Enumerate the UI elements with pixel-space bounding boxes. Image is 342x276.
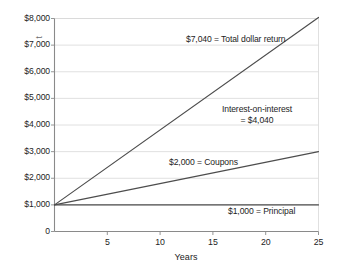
annotation-interest-on-interest: Interest-on-interest = $4,040 [204, 104, 310, 126]
x-tick-label: 20 [251, 237, 281, 247]
x-axis-title: Years [54, 252, 318, 262]
chart-root: t $8,000$7,000$6,000$5,000$4,000$3,000$2… [0, 0, 342, 276]
annotation-ioi-line2: = $4,040 [241, 115, 274, 125]
x-tick-label: 25 [304, 237, 334, 247]
annotation-principal: $1,000 = Principal [228, 206, 295, 217]
x-tick-label: 10 [145, 237, 175, 247]
x-axis-tick-labels: 510152025 [0, 0, 342, 276]
x-tick-label: 15 [198, 237, 228, 247]
x-tick-label: 5 [92, 237, 122, 247]
annotation-coupons: $2,000 = Coupons [169, 157, 238, 168]
annotation-ioi-line1: Interest-on-interest [222, 104, 292, 114]
annotation-total-dollar-return: $7,040 = Total dollar return [186, 34, 286, 45]
